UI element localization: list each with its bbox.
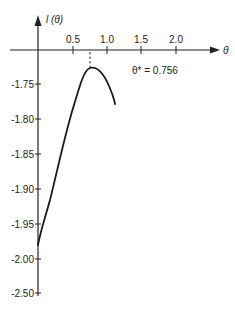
y-tick-label: -1.95 [11, 219, 34, 230]
y-tick-label: -1.80 [11, 114, 34, 125]
x-tick-label: 1.5 [134, 34, 148, 45]
x-tick-label: 0.5 [66, 34, 80, 45]
x-tick-label: 1.0 [100, 34, 114, 45]
x-axis-label: θ [223, 45, 229, 56]
y-axis-label: l (θ) [46, 14, 63, 25]
y-tick-label: -2.50 [11, 288, 34, 299]
x-axis-arrow-icon [210, 47, 220, 54]
y-tick-label: -1.75 [11, 79, 34, 90]
x-tick-label: 2.0 [169, 34, 183, 45]
y-axis-arrow-icon [35, 15, 42, 26]
likelihood-chart: l (θ) θ 0.5 1.0 1.5 2.0 -1.75 -1.80 -1.8… [0, 0, 235, 314]
likelihood-curve [38, 68, 115, 245]
y-tick-label: -2.00 [11, 254, 34, 265]
peak-annotation: θ* = 0.756 [132, 65, 178, 76]
y-tick-label: -1.85 [11, 149, 34, 160]
y-tick-label: -1.90 [11, 184, 34, 195]
